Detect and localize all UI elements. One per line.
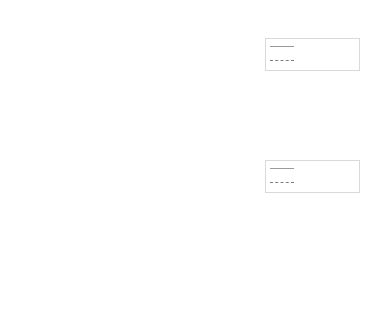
top-chart-legend-item-data xyxy=(266,53,359,67)
dashed-line-icon xyxy=(270,56,294,65)
chart-figure xyxy=(0,0,372,318)
solid-line-icon xyxy=(270,164,294,173)
top-chart-legend xyxy=(265,38,360,71)
bottom-chart-legend xyxy=(265,160,360,193)
bottom-chart-legend-item-model xyxy=(266,161,359,175)
dashed-line-icon xyxy=(270,178,294,187)
bottom-chart-legend-item-data xyxy=(266,175,359,189)
solid-line-icon xyxy=(270,42,294,51)
top-chart-legend-item-model xyxy=(266,39,359,53)
